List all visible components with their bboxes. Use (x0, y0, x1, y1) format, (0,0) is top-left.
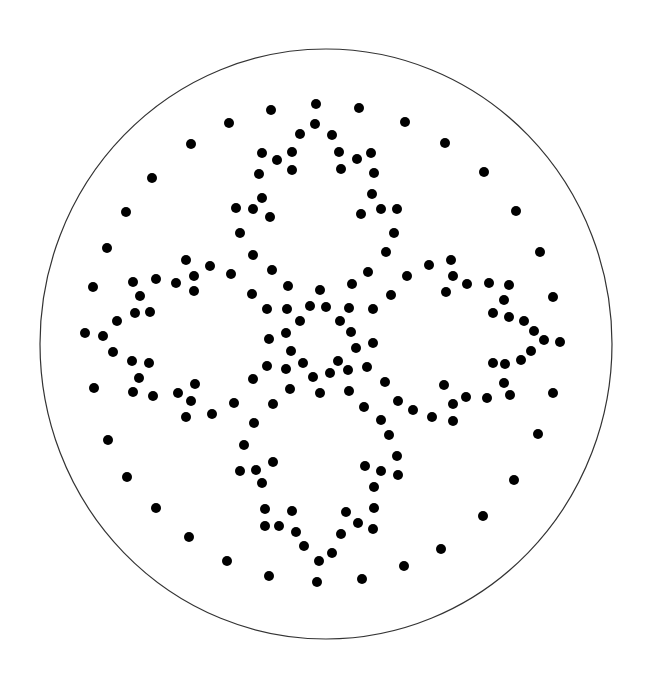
dot (539, 335, 549, 345)
dot (130, 308, 140, 318)
dot (408, 405, 418, 415)
dot (281, 364, 291, 374)
dot (341, 507, 351, 517)
dot (291, 527, 301, 537)
dot (89, 383, 99, 393)
dot (462, 279, 472, 289)
dot (327, 130, 337, 140)
dot (121, 207, 131, 217)
dot (287, 147, 297, 157)
dot (260, 521, 270, 531)
dot (264, 571, 274, 581)
dot (529, 326, 539, 336)
dot (402, 271, 412, 281)
dot (189, 286, 199, 296)
dot (360, 461, 370, 471)
dot (207, 409, 217, 419)
dot (505, 390, 515, 400)
dot (325, 368, 335, 378)
dot (386, 290, 396, 300)
dot (389, 228, 399, 238)
dot (446, 255, 456, 265)
dot (362, 362, 372, 372)
dot (354, 103, 364, 113)
dot (315, 285, 325, 295)
dot (368, 304, 378, 314)
dot (171, 278, 181, 288)
dot (368, 338, 378, 348)
dot (266, 105, 276, 115)
dot (262, 304, 272, 314)
dot (235, 228, 245, 238)
dot (257, 478, 267, 488)
dot (235, 466, 245, 476)
dot (173, 388, 183, 398)
dot (205, 261, 215, 271)
dot (376, 415, 386, 425)
dot (88, 282, 98, 292)
dot (287, 506, 297, 516)
dot (251, 465, 261, 475)
dot (226, 269, 236, 279)
dot (336, 529, 346, 539)
dot (229, 398, 239, 408)
dot (488, 358, 498, 368)
dot (440, 138, 450, 148)
dot (314, 556, 324, 566)
dot (295, 129, 305, 139)
dot (484, 278, 494, 288)
dot (282, 304, 292, 314)
dot (315, 388, 325, 398)
dot (239, 440, 249, 450)
dot (519, 316, 529, 326)
dot (108, 347, 118, 357)
dot-pattern-figure (0, 0, 646, 679)
dot (248, 374, 258, 384)
dot (144, 358, 154, 368)
dot (478, 511, 488, 521)
dot (366, 148, 376, 158)
dot (268, 399, 278, 409)
dot (376, 204, 386, 214)
dot (151, 503, 161, 513)
dot (265, 212, 275, 222)
dot (287, 165, 297, 175)
dot (376, 466, 386, 476)
dot (254, 169, 264, 179)
dot (190, 379, 200, 389)
dot (327, 548, 337, 558)
dot (509, 475, 519, 485)
dot (268, 457, 278, 467)
dot (248, 204, 258, 214)
dot (393, 396, 403, 406)
dot (310, 119, 320, 129)
dot (186, 396, 196, 406)
dot (283, 281, 293, 291)
dot (295, 316, 305, 326)
dot (312, 577, 322, 587)
dot (274, 521, 284, 531)
dot (186, 139, 196, 149)
dot (511, 206, 521, 216)
dot (448, 271, 458, 281)
dot (499, 378, 509, 388)
dot (272, 155, 282, 165)
dot (368, 524, 378, 534)
dot (80, 328, 90, 338)
dot (439, 380, 449, 390)
dot (479, 167, 489, 177)
dot (148, 391, 158, 401)
dot (112, 316, 122, 326)
dot (548, 388, 558, 398)
dot (335, 316, 345, 326)
dot (336, 164, 346, 174)
dot (257, 148, 267, 158)
dot (298, 358, 308, 368)
dot (351, 343, 361, 353)
dot (267, 265, 277, 275)
dot (347, 279, 357, 289)
dot (381, 247, 391, 257)
dot (369, 168, 379, 178)
dot (399, 561, 409, 571)
dot (356, 209, 366, 219)
